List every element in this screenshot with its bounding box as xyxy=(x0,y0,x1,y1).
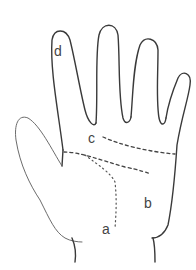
line-a xyxy=(85,155,116,228)
middle-finger-outline xyxy=(96,25,131,123)
line-b xyxy=(64,152,151,174)
wrist-right-line xyxy=(153,238,155,262)
ring-finger-outline xyxy=(131,39,166,124)
hand-diagram: d c b a xyxy=(0,0,196,270)
palm-left-outline xyxy=(62,150,63,166)
label-b: b xyxy=(144,195,152,211)
label-d: d xyxy=(54,43,62,59)
label-c: c xyxy=(88,130,95,146)
line-c xyxy=(103,137,175,154)
thumb-outline xyxy=(16,117,83,242)
label-a: a xyxy=(102,221,110,237)
